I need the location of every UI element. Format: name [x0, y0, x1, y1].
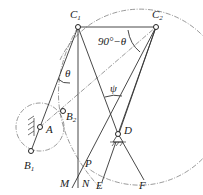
label-n: N	[81, 177, 90, 189]
joint-a	[38, 125, 43, 130]
joint-d	[116, 132, 121, 137]
diagram-canvas: C1 C2 90°−θ θ B2 A B1 ψ D P M N E F	[0, 0, 203, 195]
joint-b2	[61, 109, 66, 114]
angle-c2-arc	[128, 30, 140, 52]
label-c1: C1	[70, 8, 81, 22]
theta-arc	[58, 79, 70, 83]
label-c2: C2	[152, 8, 163, 22]
joint-c2	[154, 25, 159, 30]
label-theta: θ	[65, 67, 71, 79]
joint-b1	[29, 149, 34, 154]
label-b1: B1	[24, 159, 34, 173]
mechanism-diagram: C1 C2 90°−θ θ B2 A B1 ψ D P M N E F	[0, 0, 203, 195]
joint-c1	[76, 25, 81, 30]
line-a-b1	[31, 127, 40, 151]
ground-support-a	[28, 116, 34, 136]
label-d: D	[123, 124, 132, 136]
label-psi: ψ	[110, 82, 117, 94]
label-p: P	[84, 157, 92, 169]
label-e: E	[95, 179, 103, 191]
label-a: A	[45, 123, 53, 135]
label-angle-c2: 90°−θ	[98, 35, 127, 47]
label-f: F	[138, 179, 146, 191]
label-m: M	[59, 177, 70, 189]
label-b2: B2	[66, 110, 77, 124]
